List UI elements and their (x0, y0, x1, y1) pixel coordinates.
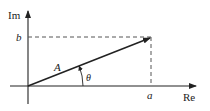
imaginary-axis-label: Im (8, 9, 21, 21)
complex-plane-diagram: Im Re b a A θ (0, 0, 210, 111)
real-component-label: a (147, 89, 153, 101)
angle-arc (79, 66, 83, 86)
magnitude-label: A (53, 61, 61, 73)
imag-component-label: b (16, 31, 22, 43)
real-axis-label: Re (183, 91, 195, 103)
angle-label: θ (86, 72, 91, 83)
